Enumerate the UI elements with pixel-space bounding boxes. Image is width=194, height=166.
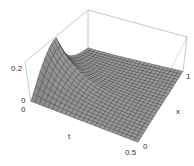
t-axis-label: t [68, 133, 70, 141]
surface-canvas [0, 0, 194, 166]
surface-plot: 0.2 0 0 t 0.5 0 1 x [0, 0, 194, 166]
x-tick-1: 1 [186, 73, 190, 81]
t-tick-0: 0 [21, 106, 25, 114]
z-tick-0: 0 [21, 97, 25, 105]
t-tick-0.5: 0.5 [125, 149, 136, 157]
x-axis-label: x [176, 108, 180, 116]
x-tick-0: 0 [143, 143, 147, 151]
z-tick-0.2: 0.2 [11, 65, 22, 73]
